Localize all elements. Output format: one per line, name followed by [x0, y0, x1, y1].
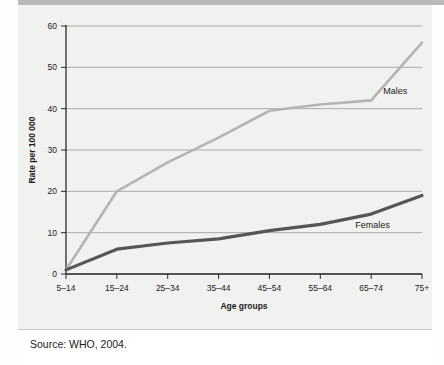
chart-panel: 0102030405060 5–1415–2425–3435–4445–5455…: [18, 8, 432, 321]
y-tick-label: 30: [48, 145, 58, 155]
plot-area: 0102030405060 5–1415–2425–3435–4445–5455…: [18, 8, 432, 321]
y-tick-label: 20: [48, 186, 58, 196]
y-tick-label: 10: [48, 228, 58, 238]
y-axis-title: Rate per 100 000: [27, 116, 37, 183]
x-tick-label: 25–34: [156, 283, 180, 293]
x-tick-label: 45–54: [258, 283, 282, 293]
x-tick-marks-group: [66, 274, 422, 279]
gridlines-group: [66, 26, 422, 274]
data-series-group: [66, 43, 422, 270]
y-tick-marks-group: [61, 26, 66, 274]
y-tick-label: 40: [48, 104, 58, 114]
x-tick-label: 35–44: [207, 283, 231, 293]
series-annotations-group: MalesFemales: [355, 86, 408, 230]
series-annotation-males: Males: [383, 86, 408, 96]
x-tick-label: 15–24: [105, 283, 129, 293]
x-tick-label: 5–14: [57, 283, 76, 293]
y-tick-label: 50: [48, 62, 58, 72]
x-axis-title: Age groups: [220, 301, 267, 311]
y-tick-labels-group: 0102030405060: [48, 21, 58, 279]
y-tick-label: 0: [52, 269, 57, 279]
x-tick-label: 55–64: [308, 283, 332, 293]
line-chart-svg: 0102030405060 5–1415–2425–3435–4445–5455…: [18, 8, 432, 321]
source-note: Source: WHO, 2004.: [30, 338, 127, 350]
figure-container: 0102030405060 5–1415–2425–3435–4445–5455…: [0, 0, 444, 365]
x-tick-labels-group: 5–1415–2425–3435–4445–5455–6465–7475+: [57, 283, 430, 293]
x-tick-label: 65–74: [359, 283, 383, 293]
series-annotation-females: Females: [355, 220, 390, 230]
source-caption-area: Source: WHO, 2004.: [18, 330, 432, 365]
y-tick-label: 60: [48, 21, 58, 31]
axis-titles-group: Age groupsRate per 100 000: [27, 116, 268, 311]
x-tick-label: 75+: [415, 283, 429, 293]
